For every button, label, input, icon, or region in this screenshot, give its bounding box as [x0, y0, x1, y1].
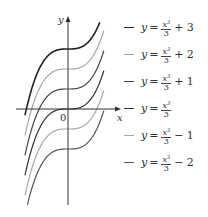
legend-constant: − 1 [174, 129, 194, 142]
legend-item: y=x33+ 3 [124, 14, 208, 41]
legend-constant: − 2 [174, 156, 194, 169]
legend-item: y=x33+ 1 [124, 68, 208, 95]
legend-item: y=x33− 2 [124, 149, 208, 176]
legend-item: y=x33 [124, 95, 208, 122]
legend-equals: = [149, 21, 158, 34]
curve-series-3 [25, 71, 104, 175]
legend-constant: + 3 [174, 21, 194, 34]
legend-swatch-icon [124, 54, 134, 56]
curve-series-2 [25, 51, 104, 156]
legend-swatch-icon [124, 135, 134, 137]
origin-label: 0 [60, 112, 66, 123]
x-axis-arrow-icon [115, 107, 121, 112]
legend-fraction: x33 [161, 45, 171, 65]
legend-fraction: x33 [161, 99, 171, 119]
y-axis-arrow-icon [66, 16, 71, 22]
legend-equals: = [149, 48, 158, 61]
legend-item: y=x33− 1 [124, 122, 208, 149]
legend-swatch-icon [124, 162, 134, 164]
legend-equals: = [149, 129, 158, 142]
legend-constant: + 1 [174, 75, 194, 88]
legend-equals: = [149, 156, 158, 169]
y-axis-label: y [57, 14, 64, 25]
chart-plot-area: x y 0 [0, 0, 124, 217]
legend-lhs: y [141, 102, 147, 115]
legend-lhs: y [141, 48, 147, 61]
legend-lhs: y [141, 156, 147, 169]
legend-fraction: x33 [161, 126, 171, 146]
curve-series-5 [27, 111, 103, 205]
legend-constant: + 2 [174, 48, 194, 61]
x-axis-label: x [117, 112, 123, 123]
legend-lhs: y [141, 75, 147, 88]
chart-legend: y=x33+ 3y=x33+ 2y=x33+ 1y=x33y=x33− 1y=x… [124, 14, 208, 176]
curve-series-4 [25, 91, 104, 195]
legend-lhs: y [141, 21, 147, 34]
legend-item: y=x33+ 2 [124, 41, 208, 68]
legend-equals: = [149, 75, 158, 88]
legend-equals: = [149, 102, 158, 115]
legend-fraction: x33 [161, 153, 171, 173]
legend-swatch-icon [124, 27, 134, 29]
legend-lhs: y [141, 129, 147, 142]
legend-fraction: x33 [161, 18, 171, 38]
legend-swatch-icon [124, 108, 134, 110]
legend-fraction: x33 [161, 72, 171, 92]
legend-swatch-icon [124, 81, 134, 83]
